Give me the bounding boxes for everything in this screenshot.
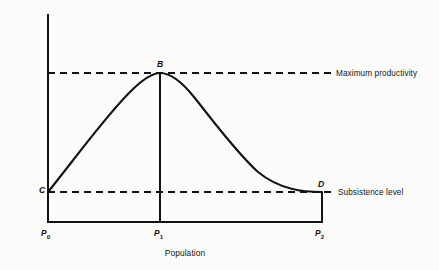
point-label-b: B bbox=[157, 60, 163, 70]
productivity-curve bbox=[48, 73, 322, 192]
population-productivity-chart: Per capita production and consumption Po… bbox=[0, 0, 439, 270]
x-axis-title: Population bbox=[0, 249, 370, 258]
x-tick-p1-subscript: 1 bbox=[160, 233, 164, 240]
x-tick-label-p1: P1 bbox=[154, 229, 163, 241]
x-tick-p0-subscript: 0 bbox=[47, 233, 51, 240]
x-tick-label-p2: P2 bbox=[315, 229, 324, 241]
annotation-subsistence-level: Subsistence level bbox=[338, 188, 403, 197]
point-label-c: C bbox=[39, 186, 45, 196]
chart-plot-area bbox=[0, 0, 439, 270]
x-tick-p2-subscript: 2 bbox=[321, 233, 325, 240]
point-label-d: D bbox=[318, 180, 324, 190]
annotation-maximum-productivity: Maximum productivity bbox=[336, 69, 417, 78]
x-tick-label-p0: P0 bbox=[41, 229, 50, 241]
